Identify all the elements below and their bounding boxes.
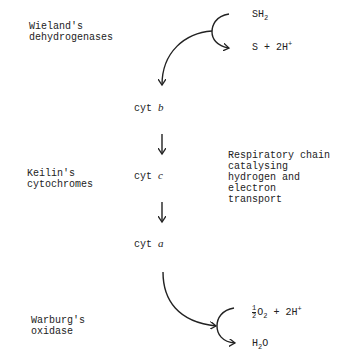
oxygen-half-o2-2h: 12O2 + 2H+ — [252, 305, 302, 320]
product-s-2h: S + 2H+ — [252, 42, 292, 53]
respiratory-chain-label: Respiratory chaincatalysinghydrogen ande… — [228, 150, 330, 205]
warburg-oxidase-label: Warburg'soxidase — [31, 315, 85, 337]
cyt-b: cyt b — [134, 102, 164, 114]
substrate-sh2: SH2 — [252, 9, 268, 20]
dehydrogenase-arc-arrow — [162, 31, 212, 85]
oxidase-arc-arrow — [163, 272, 216, 326]
keilin-cytochromes-label: Keilin'scytochromes — [27, 168, 93, 190]
oxygen-bracket-arrow — [217, 308, 235, 343]
water-h2o: H2O — [252, 338, 268, 349]
wieland-dehydrogenases-label: Wieland'sdehydrogenases — [29, 21, 113, 43]
one-half-fraction: 12 — [252, 305, 256, 320]
substrate-bracket-arrow — [212, 14, 229, 48]
cyt-c: cyt c — [134, 170, 163, 182]
cyt-a: cyt a — [134, 238, 164, 250]
